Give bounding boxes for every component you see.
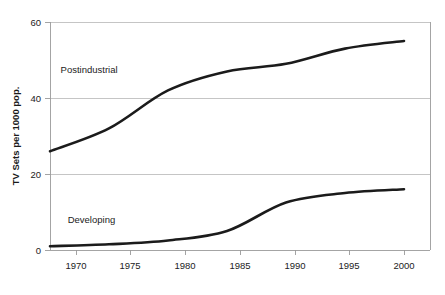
y-tick-label-60: 60 [30,17,41,28]
x-tick-label-1980: 1980 [174,260,195,271]
x-tick-label-1975: 1975 [119,260,140,271]
x-tick-label-1970: 1970 [65,260,86,271]
y-tick-label-20: 20 [30,169,41,180]
series-label-developing: Developing [68,214,116,225]
x-tick-label-2000: 2000 [393,260,414,271]
chart-container: 60 40 20 0 1970 1975 1980 1985 1990 1995… [0,0,445,295]
line-chart: 60 40 20 0 1970 1975 1980 1985 1990 1995… [0,0,445,295]
y-tick-label-0: 0 [36,245,41,256]
y-axis-title: TV Sets per 1000 pop. [10,87,21,186]
series-label-postindustrial: Postindustrial [61,64,118,75]
y-tick-marks [45,22,50,250]
x-tick-label-1985: 1985 [229,260,250,271]
x-tick-label-1990: 1990 [284,260,305,271]
y-tick-label-40: 40 [30,93,41,104]
x-tick-marks [76,250,404,255]
x-tick-label-1995: 1995 [338,260,359,271]
